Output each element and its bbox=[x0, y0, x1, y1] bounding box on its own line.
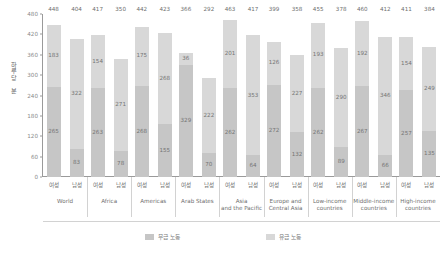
stacked-bar[interactable]: 442175268 bbox=[135, 14, 149, 177]
subcategory-labels: 여성남성 bbox=[87, 181, 131, 189]
category-group: 여성남성Africa bbox=[87, 178, 131, 222]
bar-segment-unpaid[interactable]: 263 bbox=[91, 88, 105, 177]
stacked-bar[interactable]: 29222270 bbox=[202, 14, 216, 177]
stacked-bar[interactable]: 455193262 bbox=[311, 14, 325, 177]
subcategory-label: 남성 bbox=[158, 181, 172, 189]
subcategory-label: 여성 bbox=[179, 181, 193, 189]
bar-segment-unpaid[interactable]: 257 bbox=[399, 90, 413, 177]
stacked-bar[interactable]: 411154257 bbox=[399, 14, 413, 177]
bar-group: 442175268423268155 bbox=[131, 14, 175, 177]
y-tick-mark bbox=[40, 136, 42, 137]
stacked-bar[interactable]: 460192267 bbox=[355, 14, 369, 177]
bar-total-label: 378 bbox=[336, 7, 347, 13]
stacked-bar[interactable]: 37829089 bbox=[334, 14, 348, 177]
bar-segment-paid[interactable]: 36 bbox=[179, 53, 193, 65]
subcategory-labels: 여성남성 bbox=[308, 181, 352, 189]
bar-segment-unpaid[interactable]: 64 bbox=[246, 155, 260, 177]
bar-segment-paid[interactable]: 346 bbox=[378, 37, 392, 154]
bar-segment-unpaid[interactable]: 262 bbox=[311, 88, 325, 177]
bar-segment-unpaid[interactable]: 272 bbox=[267, 85, 281, 177]
bar-segment-unpaid[interactable]: 66 bbox=[378, 155, 392, 177]
stacked-bar[interactable]: 423268155 bbox=[158, 14, 172, 177]
bar-total-label: 292 bbox=[204, 7, 215, 13]
bar-segment-unpaid[interactable]: 89 bbox=[334, 147, 348, 177]
bar-segment-unpaid[interactable]: 132 bbox=[290, 132, 304, 177]
stacked-bar[interactable]: 463201262 bbox=[223, 14, 237, 177]
bar-segment-paid[interactable]: 227 bbox=[290, 55, 304, 132]
bar-segment-unpaid[interactable]: 135 bbox=[422, 131, 436, 177]
bar-segment-value: 83 bbox=[73, 160, 80, 166]
bar-segment-value: 78 bbox=[117, 161, 124, 167]
category-group: 여성남성Americas bbox=[131, 178, 175, 222]
bar-segment-paid[interactable]: 271 bbox=[114, 59, 128, 151]
bar-segment-paid[interactable]: 290 bbox=[334, 48, 348, 146]
bar-segment-unpaid[interactable]: 155 bbox=[158, 124, 172, 177]
subcategory-label: 남성 bbox=[422, 181, 436, 189]
bar-segment-unpaid[interactable]: 329 bbox=[179, 65, 193, 177]
stacked-bar[interactable]: 41234666 bbox=[378, 14, 392, 177]
bar-total-label: 417 bbox=[248, 7, 259, 13]
stacked-bar[interactable]: 448183265 bbox=[47, 14, 61, 177]
stacked-bar[interactable]: 40432283 bbox=[70, 14, 84, 177]
y-tick-label: 0 bbox=[34, 174, 38, 180]
y-tick-mark bbox=[40, 54, 42, 55]
bar-total-label: 460 bbox=[357, 7, 368, 13]
bar-segment-value: 222 bbox=[204, 113, 215, 119]
bar-segment-paid[interactable]: 183 bbox=[47, 25, 61, 87]
bar-segment-value: 322 bbox=[71, 91, 82, 97]
bar-group: 3663632929222270 bbox=[175, 14, 219, 177]
chart-legend: 무급 노동유급 노동 bbox=[0, 232, 446, 241]
bar-total-label: 417 bbox=[92, 7, 103, 13]
stacked-bar[interactable]: 384249135 bbox=[422, 14, 436, 177]
bar-segment-paid[interactable]: 353 bbox=[246, 35, 260, 155]
bar-segment-unpaid[interactable]: 268 bbox=[135, 86, 149, 177]
stacked-bar[interactable]: 358227132 bbox=[290, 14, 304, 177]
bar-segment-value: 155 bbox=[159, 148, 170, 154]
bar-segment-paid[interactable]: 193 bbox=[311, 23, 325, 89]
category-group: 여성남성High-income countries bbox=[396, 178, 440, 222]
bar-total-label: 463 bbox=[225, 7, 236, 13]
category-label: World bbox=[57, 198, 73, 205]
category-group: 여성남성Asia and the Pacific bbox=[219, 178, 263, 222]
subcategory-labels: 여성남성 bbox=[264, 181, 308, 189]
bar-segment-paid[interactable]: 154 bbox=[91, 35, 105, 87]
stacked-bar[interactable]: 36636329 bbox=[179, 14, 193, 177]
bar-segment-value: 227 bbox=[292, 91, 303, 97]
bar-segment-paid[interactable]: 126 bbox=[267, 42, 281, 85]
stacked-bar[interactable]: 399126272 bbox=[267, 14, 281, 177]
legend-item[interactable]: 유급 노동 bbox=[266, 232, 301, 241]
bar-segment-paid[interactable]: 154 bbox=[399, 37, 413, 89]
bar-group: 46320126241735364 bbox=[219, 14, 263, 177]
subcategory-label: 여성 bbox=[311, 181, 325, 189]
bar-segment-paid[interactable]: 201 bbox=[223, 20, 237, 88]
y-tick-label: 480 bbox=[27, 11, 38, 17]
bar-segment-unpaid[interactable]: 83 bbox=[70, 149, 84, 177]
subcategory-label: 여성 bbox=[267, 181, 281, 189]
bar-group: 45519326237829089 bbox=[308, 14, 352, 177]
bar-segment-unpaid[interactable]: 78 bbox=[114, 151, 128, 177]
bar-segment-paid[interactable]: 322 bbox=[70, 39, 84, 148]
bar-segment-value: 353 bbox=[248, 93, 259, 99]
bar-segment-unpaid[interactable]: 267 bbox=[355, 86, 369, 177]
stacked-bar[interactable]: 41735364 bbox=[246, 14, 260, 177]
stacked-bar[interactable]: 417154263 bbox=[91, 14, 105, 177]
bar-segment-unpaid[interactable]: 265 bbox=[47, 87, 61, 177]
bar-segment-paid[interactable]: 249 bbox=[422, 47, 436, 132]
bar-total-label: 448 bbox=[48, 7, 59, 13]
bar-segment-unpaid[interactable]: 70 bbox=[202, 153, 216, 177]
subcategory-label: 남성 bbox=[202, 181, 216, 189]
bar-segment-value: 249 bbox=[424, 86, 435, 92]
bar-segment-paid[interactable]: 222 bbox=[202, 78, 216, 153]
bar-total-label: 358 bbox=[292, 7, 303, 13]
bar-segment-paid[interactable]: 192 bbox=[355, 21, 369, 86]
bar-segment-unpaid[interactable]: 262 bbox=[223, 88, 237, 177]
legend-item[interactable]: 무급 노동 bbox=[145, 232, 180, 241]
category-label: Asia and the Pacific bbox=[221, 198, 262, 212]
subcategory-labels: 여성남성 bbox=[175, 181, 219, 189]
stacked-bar[interactable]: 35027178 bbox=[114, 14, 128, 177]
category-label: Africa bbox=[101, 198, 117, 205]
bar-segment-paid[interactable]: 268 bbox=[158, 33, 172, 124]
bar-segment-paid[interactable]: 175 bbox=[135, 27, 149, 86]
y-tick-label: 240 bbox=[27, 93, 38, 99]
bar-total-label: 384 bbox=[424, 7, 435, 13]
